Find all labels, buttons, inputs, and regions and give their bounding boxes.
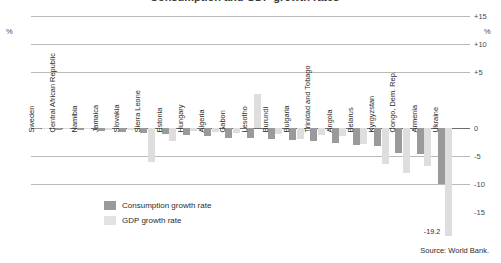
category-label: Trinidad and Tobago — [304, 65, 311, 132]
bar-group: Sierra Leone — [140, 16, 161, 184]
ytick-right-6: -15 — [474, 209, 501, 217]
category-label: Bulgaria — [283, 105, 290, 132]
chart-root: Consumption and GDP growth rates +15 +10… — [0, 0, 501, 263]
bar-group: Estonia — [162, 16, 183, 184]
page-title: Consumption and GDP growth rates — [150, 0, 339, 3]
legend-label-gdp: GDP growth rate — [122, 217, 181, 225]
category-label: Gabon — [219, 110, 226, 132]
ytick-right-4: -5 — [474, 153, 501, 161]
legend-label-consumption: Consumption growth rate — [122, 202, 211, 210]
bar-group: Algeria — [204, 16, 225, 184]
bar-group: Lesotho — [247, 16, 268, 184]
legend-swatch-gdp-icon — [104, 216, 116, 225]
bar-group: Angola — [332, 16, 353, 184]
category-label: Namibia — [70, 105, 77, 132]
ytick-right-2: +5 — [474, 69, 501, 77]
bar-group: Burundi — [268, 16, 289, 184]
category-label: Ukraine — [431, 107, 438, 132]
bar-consumption — [438, 128, 445, 184]
category-label: Angola — [325, 109, 332, 132]
plot-area: +15 +10 +5 0 -5 -10 -15 % +15 +10 +5 0 -… — [31, 16, 470, 184]
gridline-neg10 — [31, 184, 470, 185]
bar-group: Armenia — [417, 16, 438, 184]
category-label: Central African Republic — [49, 53, 56, 132]
category-label: Algeria — [198, 109, 205, 132]
category-label: Slovakia — [113, 104, 120, 132]
bar-gdp — [424, 128, 431, 166]
bar-group: Namibia — [77, 16, 98, 184]
category-label: Kyrgyzstan — [368, 96, 375, 133]
bar-gdp — [445, 128, 452, 236]
legend-item-gdp: GDP growth rate — [104, 214, 211, 227]
legend: Consumption growth rate GDP growth rate — [104, 199, 211, 229]
category-label: Burundi — [261, 107, 268, 132]
category-label: Congo, Dem. Rep. — [389, 71, 396, 132]
bar-gdp — [403, 128, 410, 173]
bar-group: Congo, Dem. Rep. — [395, 16, 416, 184]
category-label: Belarus — [346, 107, 353, 132]
legend-item-consumption: Consumption growth rate — [104, 199, 211, 212]
ytick-right-3: 0 — [474, 125, 501, 133]
source-note: Source: World Bank. — [420, 246, 489, 255]
bar-gdp — [148, 128, 155, 162]
ytick-right-1: +10 — [474, 41, 501, 49]
value-annotation-ukraine-gdp: -19.2 — [424, 227, 440, 236]
bar-group: Jamaica — [98, 16, 119, 184]
yaxis-unit-left: % — [6, 28, 13, 36]
bar-group: Hungary — [183, 16, 204, 184]
category-label: Sierra Leone — [134, 90, 141, 132]
chart-title-strip: Consumption and GDP growth rates — [0, 0, 501, 9]
yaxis-unit-right: % — [484, 28, 491, 36]
category-label: Hungary — [176, 104, 183, 132]
category-label: Sweden — [28, 106, 35, 133]
bars-layer: SwedenCentral African RepublicNamibiaJam… — [31, 16, 470, 184]
bar-group: Trinidad and Tobago — [310, 16, 331, 184]
ytick-right-5: -10 — [474, 181, 501, 189]
category-label: Lesotho — [240, 106, 247, 132]
category-label: Armenia — [410, 105, 417, 133]
bar-group: Central African Republic — [55, 16, 76, 184]
bar-group: Gabon — [225, 16, 246, 184]
legend-swatch-consumption-icon — [104, 201, 116, 210]
bar-group: Ukraine — [438, 16, 459, 184]
ytick-right-0: +15 — [474, 13, 501, 21]
category-label: Jamaica — [91, 105, 98, 133]
bar-gdp — [382, 128, 389, 164]
category-label: Estonia — [155, 108, 162, 133]
